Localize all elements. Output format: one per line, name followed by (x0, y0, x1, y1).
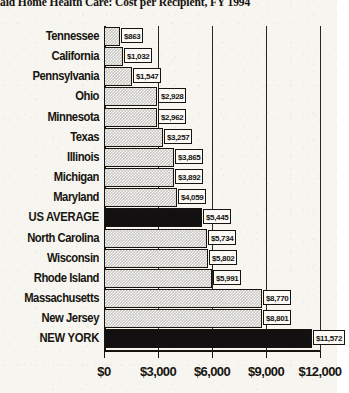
bar-row: $2,928 (104, 87, 320, 106)
bar (104, 309, 262, 328)
bar-row: $3,892 (104, 168, 320, 187)
category-label: New Jersey (9, 311, 99, 325)
bar-row: $4,059 (104, 188, 320, 207)
bar (104, 67, 132, 86)
bar-row: $2,962 (104, 108, 320, 127)
x-axis-tick (212, 351, 213, 358)
category-label: Massachusetts (9, 291, 99, 305)
bar (104, 249, 208, 268)
bar-row: $11,572 (104, 329, 320, 348)
bar-row: $5,991 (104, 269, 320, 288)
bar-value-label: $5,991 (213, 270, 241, 285)
bar-row: $8,801 (104, 309, 320, 328)
bar-value-label: $3,892 (175, 169, 203, 184)
bar-value-label: $11,572 (313, 330, 345, 345)
bar-row: $1,547 (104, 67, 320, 86)
bar-value-label: $5,734 (208, 230, 236, 245)
bar (104, 168, 174, 187)
bar-value-label: $2,962 (158, 109, 186, 124)
bar-value-label: $2,928 (158, 88, 186, 103)
bar-row: $5,445 (104, 208, 320, 227)
bar-value-label: $5,802 (209, 250, 237, 265)
chart-title: aid Home Health Care: Cost per Recipient… (0, 0, 337, 12)
bar (104, 329, 312, 348)
bar-value-label: $8,770 (263, 290, 291, 305)
category-label: Tennessee (9, 29, 99, 43)
plot-area: $863$1,032$1,547$2,928$2,962$3,257$3,865… (104, 26, 320, 351)
category-label: Texas (9, 130, 99, 144)
bar-row: $8,770 (104, 289, 320, 308)
category-label: Minnesota (9, 110, 99, 124)
bar-value-label: $1,032 (124, 48, 152, 63)
bar-row: $5,802 (104, 249, 320, 268)
bar (104, 269, 212, 288)
bar-value-label: $3,257 (164, 129, 192, 144)
bar (104, 128, 163, 147)
bar-row: $3,865 (104, 148, 320, 167)
bar (104, 229, 207, 248)
bar (104, 87, 157, 106)
category-label: Michigan (9, 170, 99, 184)
bar-value-label: $5,445 (203, 209, 231, 224)
category-label: Pennsylvania (9, 69, 99, 83)
x-axis-tick (266, 351, 267, 358)
category-label: US AVERAGE (9, 210, 99, 224)
category-label: Wisconsin (9, 251, 99, 265)
category-label: Ohio (9, 89, 99, 103)
x-axis-tick (158, 351, 159, 358)
bar (104, 148, 174, 167)
bar-row: $1,032 (104, 47, 320, 66)
x-axis-tick (104, 351, 105, 358)
category-label: North Carolina (9, 231, 99, 245)
bar (104, 188, 177, 207)
bar-value-label: $8,801 (263, 310, 291, 325)
bar-row: $5,734 (104, 229, 320, 248)
bar-value-label: $863 (121, 28, 143, 43)
bar (104, 289, 262, 308)
x-axis-tick-label: $12,000 (285, 364, 349, 379)
category-label: Maryland (9, 190, 99, 204)
bar-value-label: $3,865 (175, 149, 203, 164)
bar-value-label: $1,547 (133, 68, 161, 83)
bar-row: $3,257 (104, 128, 320, 147)
bar (104, 27, 120, 46)
bar (104, 208, 202, 227)
bar-row: $863 (104, 27, 320, 46)
bar (104, 108, 157, 127)
gridline (320, 26, 321, 351)
category-label: NEW YORK (9, 331, 99, 345)
category-label: California (9, 49, 99, 63)
category-label: Illinois (9, 150, 99, 164)
bar-value-label: $4,059 (178, 189, 206, 204)
x-axis-tick (320, 351, 321, 358)
category-label: Rhode Island (9, 271, 99, 285)
bar (104, 47, 123, 66)
